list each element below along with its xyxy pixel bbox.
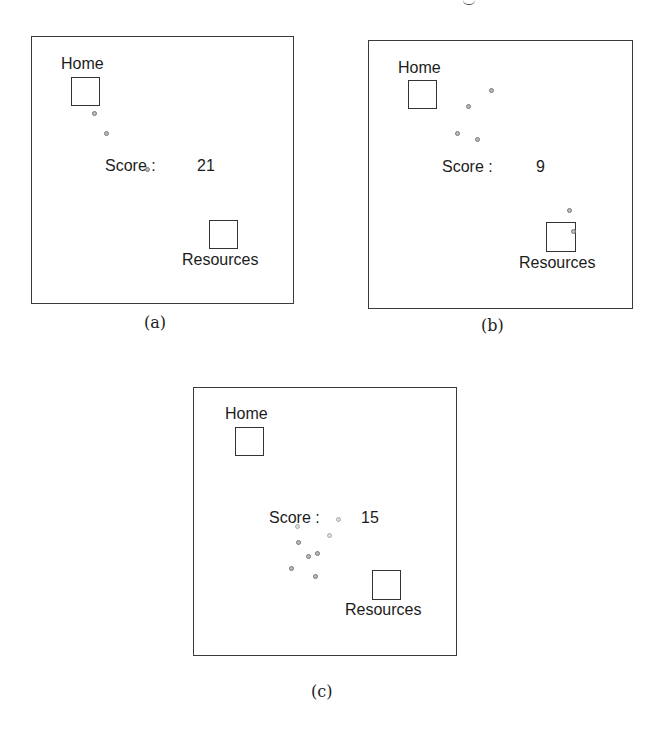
score-label: Score :: [105, 157, 156, 175]
resources-box: [546, 222, 576, 252]
home-box: [235, 427, 264, 456]
agent-dot: [455, 131, 460, 136]
caption-a: (a): [144, 313, 166, 332]
resources-label: Resources: [345, 601, 421, 619]
resources-box: [372, 570, 401, 600]
agent-dot: [327, 533, 332, 538]
agent-dot: [296, 540, 301, 545]
agent-dot: [313, 574, 318, 579]
home-label: Home: [61, 55, 104, 73]
agent-dot: [475, 137, 480, 142]
agent-dot: [289, 566, 294, 571]
agent-dot: [567, 208, 572, 213]
home-label: Home: [398, 59, 441, 77]
home-box: [71, 77, 100, 106]
home-box: [408, 80, 437, 109]
agent-dot: [466, 104, 471, 109]
agent-dot: [489, 88, 494, 93]
score-value: 21: [197, 157, 215, 175]
caption-b: (b): [481, 316, 504, 335]
cropped-text-fragment: [463, 0, 475, 5]
resources-box: [209, 220, 238, 249]
agent-dot: [571, 229, 576, 234]
agent-dot: [315, 551, 320, 556]
agent-dot: [92, 111, 97, 116]
agent-dot: [336, 517, 341, 522]
score-label: Score :: [442, 158, 493, 176]
resources-label: Resources: [182, 251, 258, 269]
agent-dot: [306, 554, 311, 559]
home-label: Home: [225, 405, 268, 423]
score-value: 15: [361, 509, 379, 527]
agent-dot: [295, 524, 300, 529]
caption-c: (c): [311, 682, 332, 701]
resources-label: Resources: [519, 254, 595, 272]
score-value: 9: [536, 158, 545, 176]
agent-dot: [104, 131, 109, 136]
agent-dot: [145, 167, 150, 172]
